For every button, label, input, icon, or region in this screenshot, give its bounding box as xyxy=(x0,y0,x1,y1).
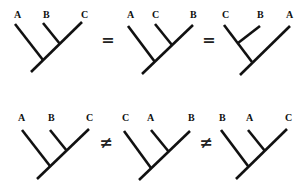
tree-bac: BAC xyxy=(219,112,292,179)
tree-branch xyxy=(221,130,248,166)
tree-branch xyxy=(155,24,172,45)
tree-branch xyxy=(139,131,190,180)
taxon-label: C xyxy=(222,9,229,20)
tree-branch xyxy=(151,130,169,152)
tree-abc: ABC xyxy=(18,112,93,179)
taxon-label: A xyxy=(286,9,294,20)
tree-branch xyxy=(31,22,82,72)
taxon-label: C xyxy=(122,112,129,123)
tree-branch xyxy=(240,26,290,75)
tree-branch xyxy=(50,130,67,151)
taxon-label: C xyxy=(81,9,88,20)
taxon-label: A xyxy=(14,9,22,20)
tree-branch xyxy=(238,26,260,43)
non-equivalent-trees-row: ABCCABBAC≠≠ xyxy=(18,112,292,180)
phylogeny-diagram: ABCACBCBA== ABCCABBAC≠≠ xyxy=(0,0,306,186)
taxon-label: A xyxy=(246,112,254,123)
taxon-label: B xyxy=(190,9,197,20)
taxon-label: C xyxy=(86,112,93,123)
tree-branch xyxy=(37,129,89,179)
tree-branch xyxy=(224,25,252,62)
taxon-label: A xyxy=(147,112,155,123)
taxon-label: A xyxy=(18,112,26,123)
taxon-label: B xyxy=(48,112,55,123)
taxon-label: B xyxy=(257,9,264,20)
not-equal-sign: ≠ xyxy=(199,133,212,152)
tree-branch xyxy=(142,25,193,74)
not-equal-sign: ≠ xyxy=(99,133,112,152)
taxon-label: C xyxy=(285,112,292,123)
equivalent-trees-row: ABCACBCBA== xyxy=(14,9,294,75)
tree-branch xyxy=(124,131,151,168)
taxon-label: B xyxy=(219,112,226,123)
taxon-label: A xyxy=(127,9,135,20)
tree-branch xyxy=(128,26,155,62)
taxon-label: B xyxy=(43,9,50,20)
tree-branch xyxy=(43,23,60,44)
tree-cba: CBA xyxy=(222,9,294,75)
tree-branch xyxy=(248,130,265,151)
tree-abc: ABC xyxy=(14,9,88,72)
equals-sign: = xyxy=(101,30,114,49)
tree-branch xyxy=(22,130,50,166)
tree-acb: ACB xyxy=(127,9,197,74)
tree-cab: CAB xyxy=(122,112,195,180)
equals-sign: = xyxy=(202,30,215,49)
taxon-label: B xyxy=(188,112,195,123)
taxon-label: C xyxy=(152,9,159,20)
tree-branch xyxy=(236,129,287,179)
tree-branch xyxy=(15,24,43,60)
